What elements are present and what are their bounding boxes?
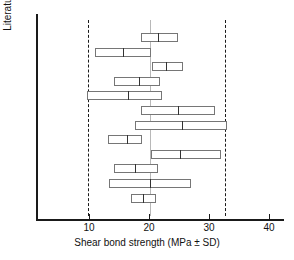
x-tick-30	[209, 214, 210, 219]
ci-bar-citation-3	[152, 62, 183, 71]
ci-bar-citation-1	[141, 33, 178, 42]
y-axis-title: Literature citations	[2, 0, 13, 50]
x-tick-10	[89, 214, 90, 219]
x-tick-label-30: 30	[203, 222, 214, 233]
ci-bar-citation-4	[114, 77, 160, 86]
mean-marker-citation-7	[182, 121, 183, 130]
mean-marker-citation-10	[135, 164, 136, 173]
mean-marker-citation-6	[178, 106, 179, 115]
x-axis-title: Shear bond strength (MPa ± SD)	[0, 237, 294, 248]
lower-ci-line	[88, 20, 89, 216]
y-axis-line	[36, 14, 38, 220]
x-tick-label-20: 20	[143, 222, 154, 233]
mean-marker-citation-4	[139, 77, 140, 86]
mean-marker-citation-2	[123, 48, 124, 57]
mean-marker-citation-9	[180, 150, 181, 159]
x-tick-label-10: 10	[83, 222, 94, 233]
upper-ci-line	[225, 20, 226, 216]
mean-marker-citation-5	[128, 91, 129, 100]
ci-bar-citation-8	[108, 135, 142, 144]
x-tick-label-40: 40	[263, 222, 274, 233]
ci-bar-citation-5	[87, 91, 162, 100]
x-tick-20	[149, 214, 150, 219]
mean-marker-citation-1	[158, 33, 159, 42]
forest-plot-figure: 10203040 Shear bond strength (MPa ± SD) …	[0, 0, 294, 260]
mean-marker-citation-11	[150, 179, 151, 188]
mean-marker-citation-8	[127, 135, 128, 144]
ci-bar-citation-9	[151, 150, 221, 159]
x-tick-40	[269, 214, 270, 219]
mean-marker-citation-12	[143, 194, 144, 203]
mean-marker-citation-3	[166, 62, 167, 71]
x-axis-line	[36, 219, 284, 221]
